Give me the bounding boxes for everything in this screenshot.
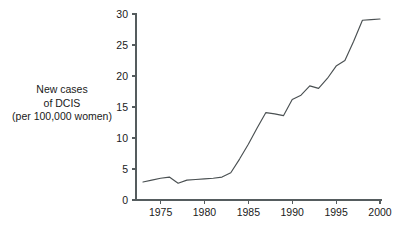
y-tick-label: 0 bbox=[122, 194, 128, 206]
line-chart-plot: 051015202530 197519801985199019952000 bbox=[0, 0, 405, 230]
x-tick-label: 1995 bbox=[324, 206, 348, 218]
x-tick-label: 1990 bbox=[281, 206, 305, 218]
x-tick-label: 2000 bbox=[368, 206, 392, 218]
y-tick-label: 30 bbox=[116, 8, 128, 20]
y-tick-label: 15 bbox=[116, 101, 128, 113]
x-tick-label: 1980 bbox=[193, 206, 217, 218]
chart-figure: New cases of DCIS (per 100,000 women) 05… bbox=[0, 0, 405, 230]
x-axis-ticks: 197519801985199019952000 bbox=[149, 200, 392, 218]
x-tick-label: 1985 bbox=[237, 206, 261, 218]
y-tick-label: 20 bbox=[116, 70, 128, 82]
y-tick-label: 10 bbox=[116, 132, 128, 144]
y-tick-label: 5 bbox=[122, 163, 128, 175]
data-series-line bbox=[143, 19, 380, 183]
y-tick-label: 25 bbox=[116, 39, 128, 51]
x-tick-label: 1975 bbox=[149, 206, 173, 218]
y-axis-ticks: 051015202530 bbox=[116, 8, 136, 206]
